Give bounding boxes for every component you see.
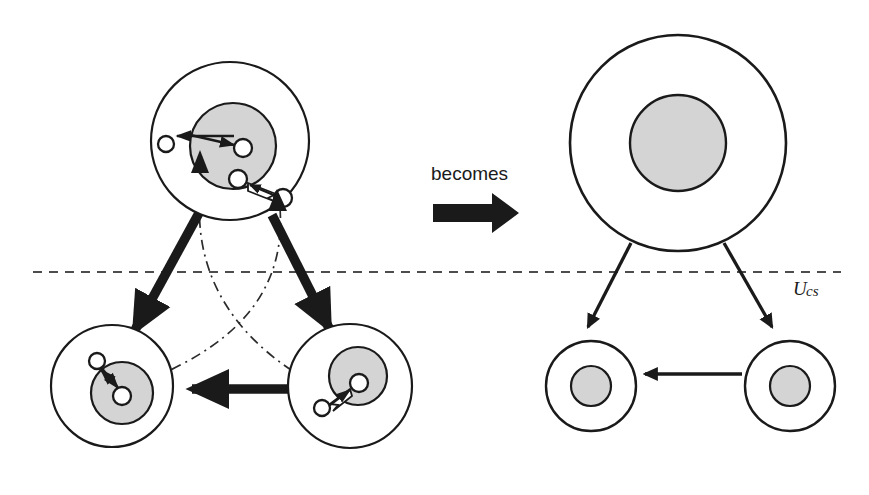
boundary-label-group: U cs [793,278,819,299]
agent-top-detailed[interactable] [151,62,309,220]
abstract-arrow-top-to-bottom-left [588,243,631,327]
agent-inner-core [571,366,611,406]
abstract-arrow-top-to-bottom-right [724,243,772,327]
agent-node[interactable] [350,374,368,392]
agent-bottom-left-abstract[interactable] [546,341,636,431]
figure-root: becomes U [0,0,869,495]
agent-node[interactable] [89,353,105,369]
agent-inner-core [630,95,726,191]
agent-bottom-right-detailed[interactable] [288,324,412,448]
agent-bottom-left-detailed[interactable] [51,325,173,447]
becomes-block-arrow-icon [433,193,519,233]
becomes-label: becomes [431,163,508,184]
boundary-label-subscript: cs [806,283,819,299]
agent-bottom-right-abstract[interactable] [745,341,835,431]
agent-node[interactable] [314,400,330,416]
agent-node[interactable] [229,170,247,188]
diagram-canvas: becomes U [0,0,869,495]
panel-abstract-view [546,35,835,431]
agent-inner-core [770,366,810,406]
agent-node[interactable] [234,139,252,157]
transition-indicator: becomes [431,163,519,233]
arrow-top-to-bottom-left [135,213,199,330]
agent-top-abstract[interactable] [570,35,786,251]
agent-node[interactable] [113,387,131,405]
agent-node[interactable] [158,136,174,152]
panel-detailed-view [51,62,412,448]
